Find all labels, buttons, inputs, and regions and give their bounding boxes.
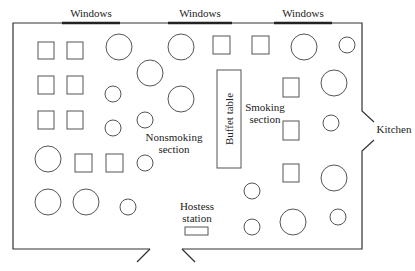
round-table-small bbox=[339, 37, 355, 53]
round-table-small bbox=[105, 120, 121, 136]
round-table-large bbox=[168, 86, 194, 112]
square-table bbox=[38, 76, 54, 94]
square-table bbox=[67, 42, 83, 59]
square-table bbox=[283, 164, 299, 182]
window-label-3: Windows bbox=[274, 7, 332, 19]
round-table-large bbox=[106, 34, 132, 60]
round-table-small bbox=[137, 155, 153, 171]
round-table-large bbox=[280, 209, 306, 235]
buffet-table-label: Buffet table bbox=[223, 89, 235, 149]
entrance-door-right bbox=[182, 249, 195, 262]
square-table bbox=[283, 121, 299, 140]
square-table bbox=[106, 154, 123, 172]
square-table bbox=[38, 42, 54, 59]
kitchen-label: Kitchen bbox=[375, 123, 413, 135]
round-table-large bbox=[291, 34, 317, 60]
nonsmoking-label-line1: Nonsmoking bbox=[143, 131, 205, 143]
round-table-small bbox=[244, 183, 260, 199]
round-table-large bbox=[168, 34, 194, 60]
square-table bbox=[38, 111, 54, 129]
square-table bbox=[67, 76, 83, 94]
round-table-small bbox=[244, 219, 260, 235]
hostess-label-line2: station bbox=[176, 212, 218, 224]
hostess-station bbox=[185, 227, 208, 235]
hostess-label-line1: Hostess bbox=[176, 200, 218, 212]
round-table-small bbox=[330, 209, 346, 225]
window-label-1: Windows bbox=[62, 7, 120, 19]
floor-plan bbox=[0, 0, 415, 271]
round-table-small bbox=[105, 86, 121, 102]
room-walls-right-lower bbox=[182, 140, 374, 249]
round-table-large bbox=[321, 165, 347, 191]
round-table-large bbox=[73, 189, 99, 215]
round-table-small bbox=[137, 112, 153, 128]
round-table-small bbox=[323, 115, 339, 131]
round-table-large bbox=[35, 189, 61, 215]
smoking-label-line1: Smoking bbox=[245, 101, 285, 113]
square-table bbox=[213, 36, 230, 54]
square-table bbox=[283, 78, 299, 97]
square-table bbox=[67, 111, 83, 129]
square-table bbox=[75, 154, 92, 172]
nonsmoking-label-line2: section bbox=[143, 143, 205, 155]
round-table-large bbox=[321, 70, 347, 96]
entrance-door-left bbox=[137, 249, 150, 262]
window-label-2: Windows bbox=[168, 7, 232, 19]
smoking-label-line2: section bbox=[245, 113, 285, 125]
square-table bbox=[252, 36, 269, 54]
round-table-small bbox=[120, 199, 136, 215]
round-table-large bbox=[137, 60, 163, 86]
round-table-large bbox=[35, 146, 61, 172]
